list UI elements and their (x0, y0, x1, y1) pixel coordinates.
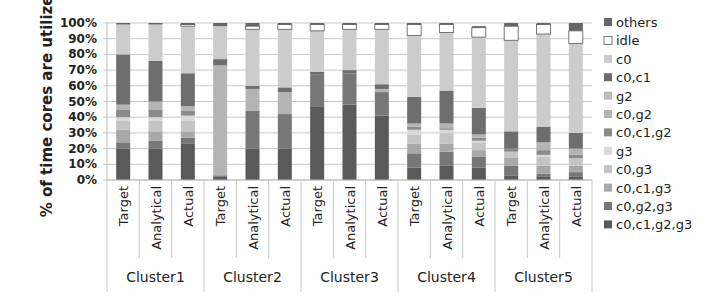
x-category-label: Target (504, 186, 519, 227)
bar-cluster4-target (407, 23, 421, 180)
legend: othersidlec0c0,c1g2c0,g2c0,c1,g2g3c0,g3c… (604, 15, 692, 232)
bar-segment (537, 127, 551, 143)
bar-segment (116, 117, 130, 120)
x-category-label: Analytical (246, 186, 261, 250)
bar-segment (213, 175, 227, 177)
bar-segment (181, 25, 195, 27)
legend-swatch (604, 36, 612, 44)
bar-cluster4-analytical (440, 23, 454, 180)
bar-cluster1-actual (181, 23, 195, 180)
bar-segment (116, 25, 130, 55)
legend-item-label: c0,c1,g2 (616, 125, 672, 140)
legend-item-label: c0,c1,g2,g3 (616, 217, 692, 232)
bar-segment (440, 130, 454, 133)
bar-segment (407, 144, 421, 153)
bar-segment (181, 144, 195, 180)
x-category-label: Analytical (149, 186, 164, 250)
bar-segment (246, 149, 260, 180)
bar-cluster5-target (504, 23, 518, 180)
bar-segment (343, 23, 357, 25)
legend-swatch (604, 110, 612, 118)
bar-segment (310, 75, 324, 106)
x-category-label: Actual (278, 186, 293, 227)
legend-item-label: c0,g2,g3 (616, 199, 673, 214)
x-category-label: Actual (569, 186, 584, 227)
bar-segment (407, 134, 421, 143)
bar-cluster1-analytical (149, 23, 163, 180)
legend-swatch (604, 147, 612, 155)
legend-item-label: c0,g3 (616, 162, 652, 177)
bar-segment (310, 106, 324, 180)
bar-segment (440, 166, 454, 180)
bar-segment (310, 72, 324, 75)
bar-segment (246, 29, 260, 86)
bar-segment (440, 32, 454, 90)
bar-segment (343, 73, 357, 104)
bar-segment (375, 92, 389, 116)
bar-segment (181, 73, 195, 106)
x-category-label: Target (213, 186, 228, 227)
bar-segment (569, 166, 583, 172)
bar-segment (213, 59, 227, 65)
bar-cluster1-target (116, 23, 130, 180)
bar-cluster4-actual (472, 26, 486, 180)
bar-segment (504, 40, 518, 131)
legend-item-label: c0,c1 (616, 70, 651, 85)
bar-segment (116, 54, 130, 104)
x-category-label: Actual (472, 186, 487, 227)
bar-segment (149, 102, 163, 110)
bar-segment (278, 114, 292, 149)
bar-segment (569, 43, 583, 132)
bar-segment (407, 25, 421, 36)
bar-segment (343, 29, 357, 70)
bar-segment (504, 175, 518, 180)
bar-segment (343, 105, 357, 180)
bar-segment (569, 155, 583, 158)
bar-cluster2-analytical (246, 23, 260, 180)
bar-segment (181, 120, 195, 131)
bar-segment (537, 23, 551, 25)
bar-segment (440, 152, 454, 166)
bar-segment (407, 123, 421, 126)
bar-segment (278, 25, 292, 30)
bar-segment (504, 158, 518, 166)
bar-segment (246, 89, 260, 111)
bar-segment (407, 167, 421, 180)
bar-segment (116, 23, 130, 25)
bar-segment (149, 120, 163, 131)
bar-segment (278, 87, 292, 92)
x-category-label: Target (407, 186, 422, 227)
legend-swatch (604, 220, 612, 228)
bar-segment (278, 23, 292, 25)
bar-segment (310, 23, 324, 25)
bar-segment (472, 134, 486, 137)
y-tick-label: 0% (77, 173, 97, 187)
bar-segment (375, 25, 389, 30)
bar-segment (472, 156, 486, 167)
bar-segment (181, 106, 195, 111)
bar-segment (181, 111, 195, 116)
y-tick-label: 30% (68, 126, 97, 140)
bar-segment (537, 156, 551, 165)
bar-segment (343, 70, 357, 73)
bar-segment (407, 130, 421, 135)
bar-segment (504, 131, 518, 148)
bar-segment (116, 130, 130, 143)
legend-swatch (604, 92, 612, 100)
bar-segment (537, 174, 551, 177)
bar-segment (504, 152, 518, 158)
bar-segment (472, 37, 486, 108)
bar-segment (149, 117, 163, 120)
legend-swatch (604, 55, 612, 63)
x-category-label: Analytical (343, 186, 358, 250)
y-tick-label: 20% (68, 142, 97, 156)
bar-segment (472, 167, 486, 180)
bar-segment (116, 120, 130, 129)
bar-segment (569, 158, 583, 166)
bar-segment (278, 29, 292, 87)
bar-segment (569, 149, 583, 155)
bar-segment (246, 86, 260, 89)
bar-segment (569, 172, 583, 177)
x-category-label: Analytical (537, 186, 552, 250)
legend-item-label: g3 (616, 144, 633, 159)
